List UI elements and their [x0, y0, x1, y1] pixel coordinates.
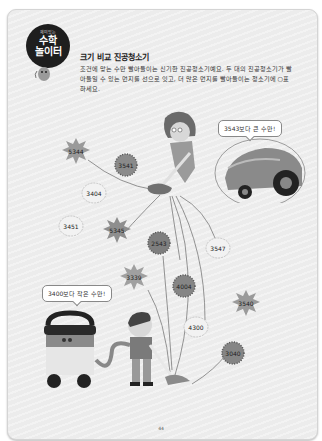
dust-value: 3451	[63, 223, 78, 230]
dust-value: 3404	[86, 190, 101, 197]
dust-value: 2543	[151, 240, 166, 247]
dust-3404[interactable]: 3404	[81, 182, 107, 204]
dust-value: 3339	[126, 274, 141, 281]
dust-value: 3547	[210, 245, 225, 252]
dust-value: 3540	[238, 300, 253, 307]
dust-value: 5344	[68, 148, 83, 155]
page-number: 44	[0, 426, 322, 431]
dust-value: 3040	[225, 350, 240, 357]
dust-value: 5345	[109, 227, 124, 234]
dust-3541[interactable]: 3541	[113, 152, 139, 178]
bottom-vacuum-condition-bubble: 3400보다 작은 수만!	[42, 285, 112, 302]
dust-value: 3541	[118, 162, 133, 169]
dust-3040[interactable]: 3040	[220, 340, 246, 366]
dust-2543[interactable]: 2543	[146, 230, 172, 256]
dust-value: 4300	[188, 324, 203, 331]
dust-3547[interactable]: 3547	[205, 237, 231, 259]
dust-4300[interactable]: 4300	[183, 316, 209, 338]
dust-4004[interactable]: 4004	[171, 273, 197, 299]
dust-3451[interactable]: 3451	[58, 215, 84, 237]
dust-3540[interactable]: 3540	[232, 290, 260, 316]
dust-3339[interactable]: 3339	[120, 264, 148, 290]
dust-5344[interactable]: 5344	[62, 138, 90, 164]
dust-5345[interactable]: 5345	[103, 217, 131, 243]
dust-value: 4004	[176, 283, 191, 290]
boy-with-vacuum-illustration	[40, 305, 200, 395]
top-vacuum-condition-bubble: 3543보다 큰 수만!	[218, 120, 282, 137]
